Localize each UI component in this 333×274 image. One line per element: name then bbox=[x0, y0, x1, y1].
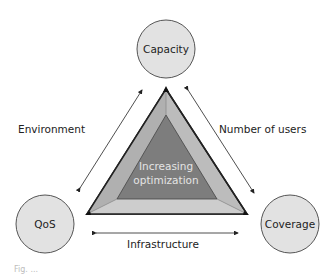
edge-number-of-users-label: Number of users bbox=[219, 123, 306, 135]
node-coverage-label: Coverage bbox=[265, 218, 315, 230]
edge-environment-label: Environment bbox=[18, 123, 85, 135]
node-coverage: Coverage bbox=[261, 195, 319, 253]
center-label-line2: optimization bbox=[133, 174, 198, 186]
apex-marker-icon bbox=[163, 86, 169, 92]
figure-caption: Fig. ... bbox=[14, 265, 38, 274]
center-label-line1: Increasing bbox=[139, 160, 193, 172]
node-qos: QoS bbox=[16, 195, 74, 253]
node-capacity-label: Capacity bbox=[143, 43, 189, 55]
optimization-triangle bbox=[85, 86, 249, 215]
edge-infrastructure: Infrastructure bbox=[96, 233, 238, 250]
node-qos-label: QoS bbox=[34, 218, 56, 230]
edge-infrastructure-label: Infrastructure bbox=[127, 238, 199, 250]
node-capacity: Capacity bbox=[137, 20, 195, 78]
